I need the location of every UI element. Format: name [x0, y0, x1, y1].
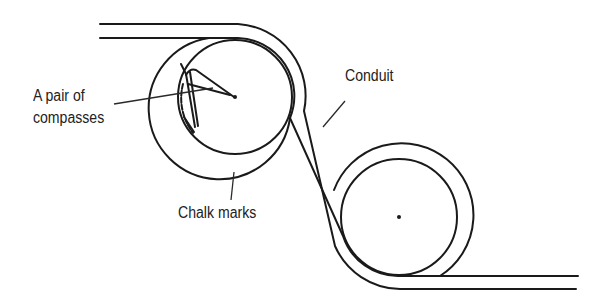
chalk-marks-leader-line [231, 172, 234, 200]
conduit-bending-diagram [0, 0, 610, 300]
conduit-inner-edge [100, 38, 578, 276]
compasses-leader-line [114, 88, 213, 104]
conduit-label: Conduit [345, 66, 394, 85]
left-chalk-ring [149, 38, 290, 179]
conduit-outer-edge [100, 24, 576, 289]
right-former [341, 159, 457, 275]
chalk-marks-label: Chalk marks [178, 203, 256, 222]
conduit-leader-line [323, 101, 345, 127]
compasses-icon [181, 64, 234, 133]
compasses-label-line1: A pair of [33, 86, 85, 105]
right-former-center-dot [397, 215, 401, 219]
compasses-label-line2: compasses [33, 108, 104, 127]
